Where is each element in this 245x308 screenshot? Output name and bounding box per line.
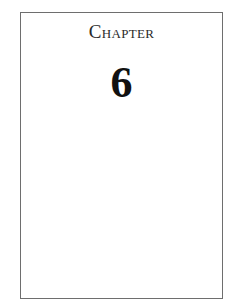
chapter-heading: Chapter: [21, 22, 222, 41]
chapter-number: 6: [21, 61, 222, 105]
page-frame: Chapter 6: [20, 12, 223, 299]
